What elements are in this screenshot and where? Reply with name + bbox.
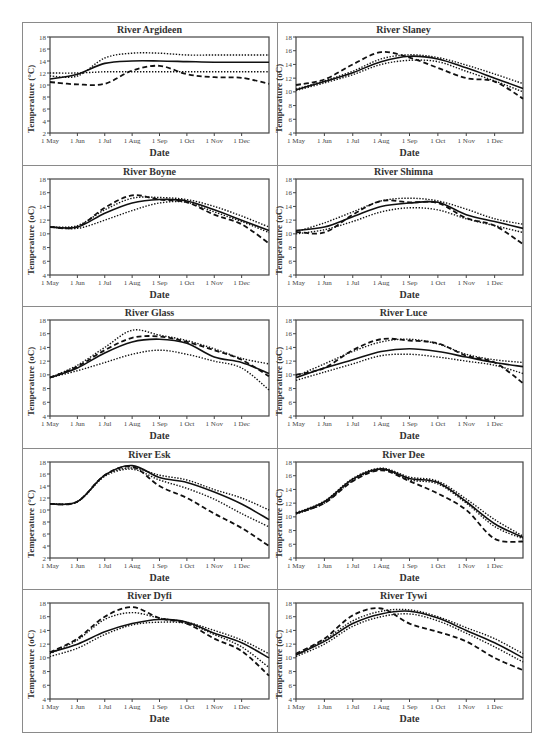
svg-text:1 Jul: 1 Jul <box>346 562 359 570</box>
svg-text:1 Jun: 1 Jun <box>317 137 332 145</box>
svg-text:1 Jun: 1 Jun <box>70 562 85 570</box>
svg-text:8: 8 <box>43 519 47 527</box>
svg-text:1 Aug: 1 Aug <box>124 562 141 570</box>
svg-text:1 Dec: 1 Dec <box>233 279 250 287</box>
svg-text:1 Jul: 1 Jul <box>98 562 111 570</box>
svg-text:1 Jul: 1 Jul <box>346 279 359 287</box>
y-axis-label: Temperature (oC) <box>26 206 36 275</box>
x-axis-label: Date <box>50 289 269 300</box>
chart-title: River Boyne <box>22 166 277 177</box>
svg-text:12: 12 <box>285 217 293 225</box>
svg-text:12: 12 <box>285 358 293 366</box>
svg-text:1 Aug: 1 Aug <box>124 420 141 428</box>
chart-title: River Glass <box>22 307 277 318</box>
y-axis-label: Temperature (oC) <box>274 489 284 558</box>
svg-text:1 Sep: 1 Sep <box>152 420 168 428</box>
svg-text:1 Dec: 1 Dec <box>233 562 250 570</box>
svg-text:1 Jun: 1 Jun <box>317 420 332 428</box>
svg-text:14: 14 <box>285 627 293 635</box>
svg-text:12: 12 <box>285 641 293 649</box>
svg-text:1 Sep: 1 Sep <box>402 703 418 711</box>
line-chart: 46810121416181 May1 Jun1 Jul1 Aug1 Sep1 … <box>276 305 531 447</box>
svg-text:6: 6 <box>43 258 47 266</box>
svg-text:16: 16 <box>39 46 47 54</box>
svg-text:1 Oct: 1 Oct <box>179 420 194 428</box>
svg-text:1 Jun: 1 Jun <box>317 562 332 570</box>
svg-text:1 May: 1 May <box>287 137 306 145</box>
svg-text:6: 6 <box>289 399 293 407</box>
svg-text:1 Dec: 1 Dec <box>486 279 503 287</box>
svg-text:10: 10 <box>285 371 293 379</box>
svg-text:14: 14 <box>39 344 47 352</box>
svg-text:10: 10 <box>39 82 47 90</box>
svg-text:1 Sep: 1 Sep <box>152 137 168 145</box>
y-axis-label: Temperature (oC) <box>26 347 36 416</box>
svg-text:1 Sep: 1 Sep <box>152 703 168 711</box>
y-axis-label: Temperature (oC) <box>274 347 284 416</box>
x-axis-label: Date <box>296 713 523 724</box>
svg-text:1 Nov: 1 Nov <box>206 279 224 287</box>
y-axis-label: Temperature (oC) <box>274 630 284 699</box>
svg-text:1 Jun: 1 Jun <box>70 703 85 711</box>
svg-text:1 Aug: 1 Aug <box>373 562 390 570</box>
svg-text:14: 14 <box>39 483 47 491</box>
svg-text:6: 6 <box>289 116 293 124</box>
svg-text:1 Oct: 1 Oct <box>430 137 445 145</box>
chart-panel-river-luce: 46810121416181 May1 Jun1 Jul1 Aug1 Sep1 … <box>276 305 531 447</box>
svg-text:1 Jun: 1 Jun <box>70 137 85 145</box>
svg-text:10: 10 <box>39 371 47 379</box>
svg-text:1 Nov: 1 Nov <box>206 703 224 711</box>
svg-text:1 Oct: 1 Oct <box>179 279 194 287</box>
chart-panel-river-boyne: 46810121416181 May1 Jun1 Jul1 Aug1 Sep1 … <box>22 164 277 306</box>
chart-panel-river-esk: 246810121416181 May1 Jun1 Jul1 Aug1 Sep1… <box>22 447 277 589</box>
svg-text:1 Dec: 1 Dec <box>233 420 250 428</box>
x-axis-label: Date <box>296 147 523 158</box>
svg-text:1 Nov: 1 Nov <box>206 420 224 428</box>
line-chart: 46810121416181 May1 Jun1 Jul1 Aug1 Sep1 … <box>276 22 531 164</box>
svg-text:4: 4 <box>43 543 47 551</box>
svg-text:10: 10 <box>285 513 293 521</box>
svg-text:14: 14 <box>39 627 47 635</box>
line-chart: 246810121416181 May1 Jun1 Jul1 Aug1 Sep1… <box>22 447 277 589</box>
svg-text:16: 16 <box>285 189 293 197</box>
svg-text:1 Jul: 1 Jul <box>98 703 111 711</box>
svg-text:12: 12 <box>39 70 47 78</box>
svg-text:1 Oct: 1 Oct <box>430 562 445 570</box>
svg-text:16: 16 <box>285 47 293 55</box>
svg-text:1 May: 1 May <box>287 703 306 711</box>
svg-text:16: 16 <box>39 189 47 197</box>
x-axis-label: Date <box>50 430 269 441</box>
svg-text:1 May: 1 May <box>41 137 60 145</box>
svg-text:6: 6 <box>43 682 47 690</box>
chart-title: River Argideen <box>22 24 277 35</box>
svg-text:14: 14 <box>285 486 293 494</box>
svg-text:1 May: 1 May <box>41 279 60 287</box>
svg-text:1 Jul: 1 Jul <box>98 137 111 145</box>
line-chart: 46810121416181 May1 Jun1 Jul1 Aug1 Sep1 … <box>22 164 277 306</box>
y-axis-label: Temperature (°C) <box>26 65 36 133</box>
svg-text:1 Oct: 1 Oct <box>430 703 445 711</box>
svg-text:14: 14 <box>39 58 47 66</box>
svg-text:1 Nov: 1 Nov <box>458 137 476 145</box>
svg-text:1 May: 1 May <box>41 703 60 711</box>
svg-text:6: 6 <box>289 258 293 266</box>
svg-text:10: 10 <box>39 654 47 662</box>
svg-text:1 Nov: 1 Nov <box>458 420 476 428</box>
svg-text:1 Oct: 1 Oct <box>179 137 194 145</box>
svg-text:1 Sep: 1 Sep <box>152 562 168 570</box>
svg-text:1 Oct: 1 Oct <box>179 703 194 711</box>
svg-text:1 Oct: 1 Oct <box>430 420 445 428</box>
y-axis-label: Temperature (oC) <box>26 630 36 699</box>
svg-text:12: 12 <box>39 217 47 225</box>
y-axis-label: Temperature (°C) <box>26 490 36 558</box>
svg-text:14: 14 <box>285 203 293 211</box>
svg-text:10: 10 <box>39 507 47 515</box>
svg-text:1 Jul: 1 Jul <box>346 137 359 145</box>
svg-text:8: 8 <box>43 94 47 102</box>
svg-text:1 Dec: 1 Dec <box>486 703 503 711</box>
chart-panel-river-dyfi: 46810121416181 May1 Jun1 Jul1 Aug1 Sep1 … <box>22 588 277 730</box>
chart-title: River Tywi <box>276 590 531 601</box>
chart-title: River Dee <box>276 449 531 460</box>
svg-text:10: 10 <box>285 654 293 662</box>
svg-text:8: 8 <box>43 385 47 393</box>
